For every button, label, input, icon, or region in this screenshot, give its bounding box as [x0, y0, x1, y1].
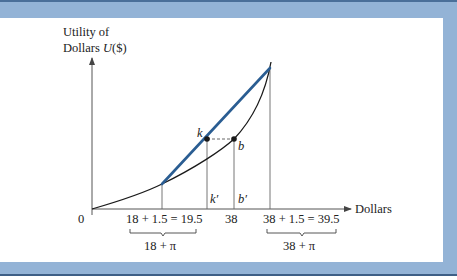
brace-label-high: 38 + π [283, 240, 315, 253]
y-axis-label-fn: U [103, 41, 112, 55]
label-k: k [197, 127, 203, 140]
label-b: b [238, 140, 244, 153]
brace-low [130, 229, 196, 236]
chord-line [162, 68, 270, 184]
tick-label-low: 18 + 1.5 = 19.5 [126, 213, 203, 226]
x-axis-label: Dollars [355, 203, 392, 216]
y-axis-label-prefix: Dollars [63, 41, 103, 55]
point-k [204, 136, 210, 142]
y-axis-label-line1: Utility of [63, 26, 109, 39]
y-axis-label-line2: Dollars U($) [63, 42, 127, 55]
brace-high [267, 229, 336, 236]
point-b [231, 136, 237, 142]
origin-label: 0 [78, 213, 84, 226]
y-axis-label-suffix: ($) [112, 41, 127, 55]
tick-label-mid: 38 [225, 213, 238, 226]
utility-curve [92, 62, 271, 209]
brace-label-low: 18 + π [144, 240, 176, 253]
tick-label-high: 38 + 1.5 = 39.5 [263, 213, 340, 226]
label-b-prime: b′ [238, 193, 247, 206]
label-k-prime: k′ [210, 193, 218, 206]
